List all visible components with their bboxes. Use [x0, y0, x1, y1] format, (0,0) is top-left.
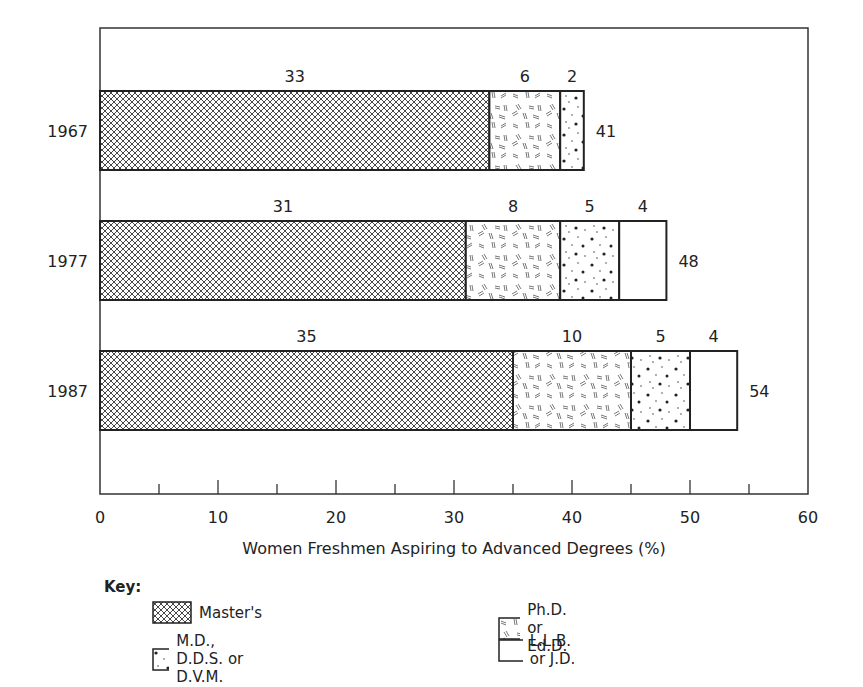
category-label: 1977 — [47, 252, 88, 271]
bar-segment — [489, 91, 560, 170]
x-axis-label: Women Freshmen Aspiring to Advanced Degr… — [242, 539, 665, 558]
x-tick-label: 60 — [798, 508, 818, 527]
legend-item-llb: L.L.B. or J.D. — [498, 632, 586, 668]
bar-segment — [631, 351, 690, 430]
legend-label: Master's — [199, 604, 262, 622]
bar-segment — [466, 221, 560, 300]
blank-swatch-icon — [498, 639, 523, 662]
crosshatch-swatch-icon — [152, 601, 192, 624]
bar-segment — [560, 91, 584, 170]
legend-item-masters: Master's — [152, 601, 262, 624]
segment-value-label: 31 — [273, 197, 293, 216]
legend-label: M.D., D.D.S. or D.V.M. — [176, 632, 246, 686]
dots-swatch-icon — [152, 648, 169, 671]
segment-value-label: 35 — [296, 327, 316, 346]
legend-label: L.L.B. or J.D. — [530, 632, 587, 668]
segment-value-label: 4 — [709, 327, 719, 346]
segment-value-label: 33 — [285, 67, 305, 86]
bar-segment — [690, 351, 737, 430]
x-tick-label: 30 — [444, 508, 464, 527]
segment-value-label: 2 — [567, 67, 577, 86]
segment-value-label: 5 — [585, 197, 595, 216]
x-tick-label: 40 — [562, 508, 582, 527]
bar-segment — [100, 91, 489, 170]
bar-segment — [513, 351, 631, 430]
bar-segment — [560, 221, 619, 300]
bar-segment — [619, 221, 666, 300]
legend-item-md: M.D., D.D.S. or D.V.M. — [152, 632, 246, 686]
segment-value-label: 8 — [508, 197, 518, 216]
total-value-label: 48 — [678, 252, 698, 271]
total-value-label: 41 — [596, 122, 616, 141]
x-axis: 0102030405060 — [95, 480, 818, 527]
x-tick-label: 50 — [680, 508, 700, 527]
x-tick-label: 10 — [208, 508, 228, 527]
total-value-label: 54 — [749, 382, 769, 401]
segment-value-label: 4 — [638, 197, 648, 216]
segment-value-label: 10 — [562, 327, 582, 346]
category-label: 1967 — [47, 122, 88, 141]
category-label: 1987 — [47, 382, 88, 401]
x-tick-label: 20 — [326, 508, 346, 527]
segment-value-label: 6 — [520, 67, 530, 86]
segment-value-label: 5 — [655, 327, 665, 346]
legend-title: Key: — [104, 578, 141, 596]
x-tick-label: 0 — [95, 508, 105, 527]
bar-segment — [100, 221, 466, 300]
bar-segment — [100, 351, 513, 430]
bars-group: 196733624119773185448198735105454 — [47, 67, 769, 430]
